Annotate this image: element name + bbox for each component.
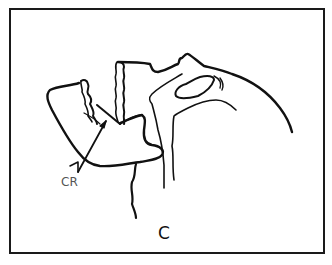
central-ray-tail <box>70 162 78 172</box>
panel-label: C <box>158 223 170 243</box>
central-ray-arrowhead <box>100 121 106 128</box>
orbit-shape <box>175 76 214 98</box>
central-ray-label: CR <box>61 175 78 189</box>
upper-teeth <box>118 62 124 124</box>
neck-line <box>131 164 136 218</box>
orbit-hook <box>214 76 223 90</box>
upper-teeth-inner <box>115 62 118 122</box>
palate-line <box>172 100 236 180</box>
